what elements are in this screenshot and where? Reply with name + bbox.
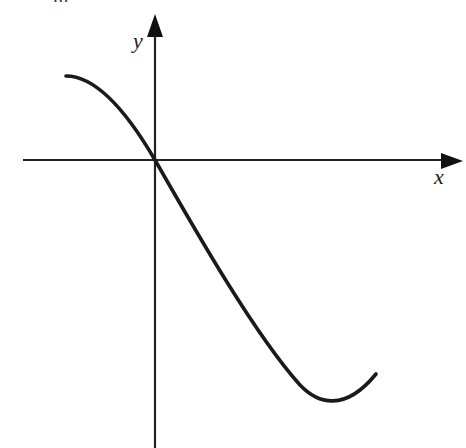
y-axis-arrow-icon <box>147 14 163 37</box>
function-curve <box>66 76 376 401</box>
x-axis-label: x <box>434 164 444 190</box>
y-axis-label: y <box>133 28 143 54</box>
clipped-header-text: · − … ·· <box>0 0 160 5</box>
x-axis-arrow-icon <box>441 153 463 169</box>
function-graph: · − … ·· y x <box>0 0 466 448</box>
graph-canvas <box>0 0 466 448</box>
